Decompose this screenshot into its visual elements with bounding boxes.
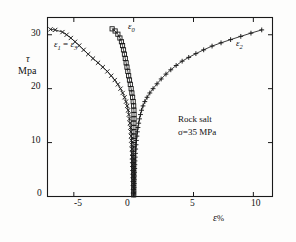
eps2-subscript: 2 [240, 43, 243, 50]
series-line [134, 30, 262, 195]
x-axis-title-unit: % [217, 213, 224, 223]
y-tick-label-20: 20 [31, 82, 41, 92]
annotation-confining-stress: σ=35 MPa [178, 128, 216, 137]
annotation-material: Rock salt [178, 115, 212, 124]
eps-equals-sign: = [61, 39, 71, 49]
curve-label-eps0: ε0 [128, 22, 135, 34]
x-tick-label-minus5: -5 [74, 199, 82, 209]
figure-canvas: τ Mpa ε% 0 10 20 30 -5 0 5 10 ε1 = ε3 ε0… [0, 0, 296, 242]
y-axis-title-unit: Mpa [18, 66, 36, 77]
y-axis-title-symbol: τ [26, 54, 30, 65]
curve-label-eps1-eps3: ε1 = ε3 [54, 40, 77, 52]
x-axis-title: ε% [213, 213, 224, 224]
y-tick-label-0: 0 [37, 189, 42, 199]
series-line [50, 29, 133, 195]
series-3 [132, 28, 265, 198]
y-tick-label-30: 30 [31, 29, 41, 39]
x-tick-label-0: 0 [125, 199, 130, 209]
y-tick-label-10: 10 [31, 136, 41, 146]
x-tick-label-10: 10 [251, 199, 261, 209]
curve-label-eps2: ε2 [236, 39, 243, 51]
eps3-subscript: 3 [74, 44, 77, 51]
x-tick-label-5: 5 [190, 199, 195, 209]
eps0-subscript: 0 [132, 26, 135, 33]
